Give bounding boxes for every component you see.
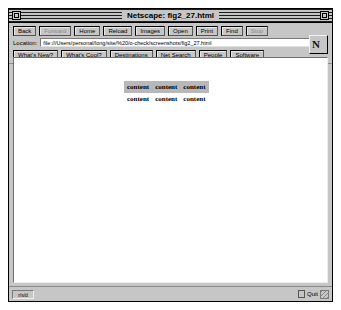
title-bar[interactable]: Netscape: fig2_27.html: [9, 9, 332, 23]
open-button[interactable]: Open: [168, 26, 193, 36]
status-bar: r/s/d Quit: [9, 286, 332, 301]
resize-box-icon[interactable]: [320, 11, 329, 20]
resize-grip-icon[interactable]: [320, 290, 329, 299]
content-table: content content content content content …: [124, 81, 209, 105]
browser-window: Netscape: fig2_27.html Back Forward Home…: [8, 8, 333, 302]
find-button[interactable]: Find: [221, 26, 243, 36]
location-input[interactable]: file:///Users/personal/long/site/%20/o-c…: [40, 38, 328, 47]
window-title: Netscape: fig2_27.html: [9, 9, 332, 22]
status-right-label: Quit: [307, 291, 318, 297]
netscape-logo-icon[interactable]: N: [307, 35, 328, 54]
forward-button[interactable]: Forward: [39, 26, 71, 36]
html-page: content content content content content …: [14, 58, 327, 282]
back-button[interactable]: Back: [13, 26, 36, 36]
images-button[interactable]: Images: [135, 26, 165, 36]
table-cell: content: [152, 81, 180, 93]
status-message-area: [37, 290, 295, 299]
security-lock-icon[interactable]: [298, 290, 305, 298]
location-label: Location:: [13, 40, 37, 46]
window-title-text: Netscape: fig2_27.html: [122, 11, 219, 20]
table-cell: content: [124, 93, 152, 105]
location-bar: Location: file:///Users/personal/long/si…: [9, 38, 332, 50]
home-button[interactable]: Home: [74, 26, 100, 36]
table-cell: content: [124, 81, 152, 93]
reload-button[interactable]: Reload: [103, 26, 132, 36]
status-left-label: r/s/d: [12, 290, 34, 299]
netscape-logo-box: N: [309, 35, 328, 54]
table-row: content content content: [124, 81, 209, 93]
content-canvas[interactable]: content content content content content …: [13, 57, 328, 283]
table-cell: content: [180, 93, 208, 105]
table-cell: content: [152, 93, 180, 105]
netscape-logo-letter: N: [312, 37, 320, 51]
navigation-toolbar: Back Forward Home Reload Images Open Pri…: [9, 23, 332, 38]
stop-button[interactable]: Stop: [246, 26, 268, 36]
status-right-group: Quit: [298, 290, 329, 299]
resize-box-inner: [322, 13, 327, 18]
table-row: content content content: [124, 93, 209, 105]
print-button[interactable]: Print: [196, 26, 218, 36]
table-cell: content: [180, 81, 208, 93]
